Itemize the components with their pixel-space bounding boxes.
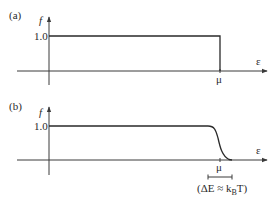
panel-a-y-tick: 1.0: [34, 30, 48, 42]
panel-a-x-tick-mu: μ: [216, 73, 222, 85]
panel-a-label: (a): [9, 9, 22, 22]
panel-b-label: (b): [9, 100, 22, 113]
panel-b-x-axis-label: ε: [256, 144, 261, 156]
panel-b-width-bracket: [208, 175, 232, 180]
panel-b-x-tick-mu: μ: [216, 161, 222, 173]
panel-b-y-axis-label: f: [39, 106, 44, 118]
panel-a: (a) f ε 1.0 μ: [9, 9, 267, 85]
panel-b-annotation: (ΔE ≈ kBT): [197, 182, 248, 197]
panel-b-y-tick: 1.0: [34, 120, 48, 132]
panel-a-y-axis-label: f: [39, 14, 44, 26]
panel-b: (b) f ε 1.0 μ (ΔE ≈ kBT): [9, 100, 267, 197]
panel-a-step-curve: [49, 36, 220, 71]
fermi-distribution-figure: (a) f ε 1.0 μ (b) f ε 1.0 μ (ΔE ≈: [0, 0, 277, 209]
panel-a-x-axis-label: ε: [256, 55, 261, 67]
panel-b-fermi-curve: [49, 126, 232, 160]
